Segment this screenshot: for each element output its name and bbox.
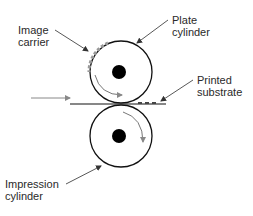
image-carrier-ink (89, 43, 108, 72)
printed-substrate-label: Printed substrate (197, 74, 242, 98)
plate-cylinder-leader (137, 20, 168, 43)
plate-cylinder-axle (112, 65, 126, 79)
impression-cylinder-label: Impression cylinder (5, 178, 59, 202)
image-carrier-label: Image carrier (18, 24, 49, 48)
image-carrier-leader (55, 30, 88, 51)
impression-cylinder-axle (112, 129, 126, 143)
impression-rotation-arrow (123, 112, 143, 142)
plate-cylinder-label: Plate cylinder (172, 14, 210, 38)
printed-substrate-leader (161, 80, 193, 101)
impression-cylinder-leader (66, 166, 101, 184)
printed-ink-marks (138, 102, 156, 104)
